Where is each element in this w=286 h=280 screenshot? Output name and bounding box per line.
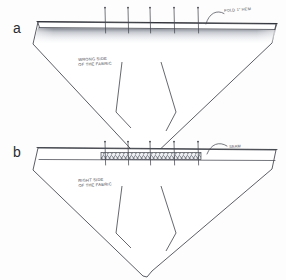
diagram-sheet: a b WRONG SIDE OF THE FABRIC FOLD 1" HEM… [0,0,286,280]
panel-a [33,7,277,163]
panel-a-leader-line [206,12,224,24]
panel-a-hem-shading [34,28,276,43]
panel-a-surface-note: WRONG SIDE OF THE FABRIC [78,56,112,67]
panel-a-outline [33,22,276,163]
panel-b-stitch-band [101,153,201,160]
panel-a-label: a [13,20,21,36]
panel-b-outline [33,148,276,277]
panel-b-edge-note: SEAM [229,144,241,149]
panel-b-surface-note: RIGHT SIDE OF THE FABRIC [78,176,112,188]
diagram-canvas [0,0,286,280]
panel-b [33,141,277,277]
panel-b-label: b [13,144,21,160]
